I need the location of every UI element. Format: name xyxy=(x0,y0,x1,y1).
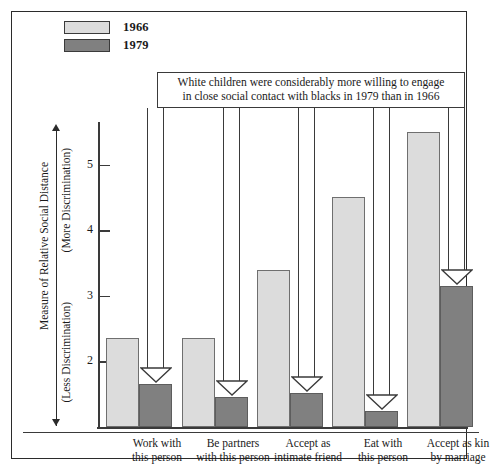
arrow-up-icon xyxy=(52,124,60,131)
arrow-shaft xyxy=(448,108,465,270)
annotation-line-1: White children were considerably more wi… xyxy=(178,76,445,90)
bar-1966-2 xyxy=(257,270,290,427)
y-axis-line xyxy=(98,122,100,427)
legend-item-1979: 1979 xyxy=(64,38,149,53)
arrow-shaft xyxy=(373,108,390,395)
legend-label-1979: 1979 xyxy=(123,38,149,53)
bar-1979-4 xyxy=(440,286,473,427)
bar-1979-1 xyxy=(215,397,248,427)
arrow-shaft xyxy=(223,108,240,381)
legend-label-1966: 1966 xyxy=(123,20,149,35)
y-tick-label-2: 2 xyxy=(78,353,93,368)
y-axis-more-discrimination-label: (More Discrimination) xyxy=(60,148,72,252)
bar-1966-1 xyxy=(182,338,215,427)
y-tick-5 xyxy=(99,165,110,167)
y-axis-less-discrimination-label: (Less Discrimination) xyxy=(60,302,72,403)
y-tick-label-5: 5 xyxy=(78,157,93,172)
arrow-shaft xyxy=(298,108,315,377)
bar-1979-0 xyxy=(139,384,172,427)
chart-legend: 1966 1979 xyxy=(64,20,149,56)
category-label-4: Accept as kinby marriage xyxy=(412,437,494,464)
bar-1966-0 xyxy=(106,338,139,427)
callout-arrow-0 xyxy=(147,108,164,368)
legend-swatch-icon xyxy=(64,21,110,34)
legend-item-1966: 1966 xyxy=(64,20,149,35)
arrow-head-icon xyxy=(216,380,248,396)
legend-swatch-icon xyxy=(64,39,110,52)
callout-arrow-3 xyxy=(373,108,390,395)
arrow-head-icon xyxy=(441,269,473,285)
arrow-head-icon xyxy=(366,394,398,410)
category-label-line2: by marriage xyxy=(412,451,494,465)
callout-arrow-4 xyxy=(448,108,465,270)
x-axis-line xyxy=(97,427,468,429)
bar-1979-2 xyxy=(290,393,323,427)
callout-arrow-2 xyxy=(298,108,315,377)
y-tick-label-4: 4 xyxy=(78,222,93,237)
bar-1966-4 xyxy=(407,132,440,427)
y-tick-label-3: 3 xyxy=(78,288,93,303)
y-tick-3 xyxy=(99,296,110,298)
chart-frame: 1966 1979 White children were considerab… xyxy=(11,11,467,459)
arrow-head-icon xyxy=(140,367,172,383)
bar-1979-3 xyxy=(365,411,398,427)
category-separator xyxy=(23,432,479,433)
callout-arrow-1 xyxy=(223,108,240,381)
direction-axis-line xyxy=(56,130,57,426)
annotation-callout: White children were considerably more wi… xyxy=(157,72,465,108)
y-tick-4 xyxy=(99,230,110,232)
arrow-down-icon xyxy=(52,419,60,426)
annotation-line-2: in close social contact with blacks in 1… xyxy=(183,90,440,104)
arrow-head-icon xyxy=(291,376,323,392)
category-label-line1: Accept as kin xyxy=(412,437,494,451)
y-axis-title: Measure of Relative Social Distance xyxy=(38,162,50,330)
arrow-shaft xyxy=(147,108,164,368)
bar-1966-3 xyxy=(332,197,365,427)
